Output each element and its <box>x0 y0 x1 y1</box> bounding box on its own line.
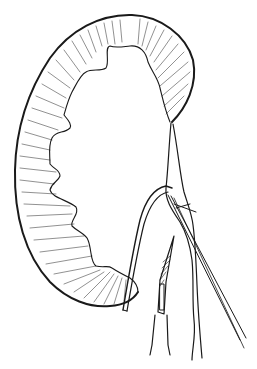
scalpel-handle <box>150 315 170 355</box>
needle-shaft-2 <box>171 196 246 338</box>
suture-needle <box>168 195 246 348</box>
scalpel <box>150 236 174 355</box>
retractor-tip <box>123 310 127 311</box>
retractor <box>123 186 172 311</box>
ureter-left-line <box>166 123 195 360</box>
kidney-hatching <box>20 19 190 304</box>
kidney-inner-outline <box>50 46 171 292</box>
needle-shaft-3 <box>174 198 244 348</box>
scalpel-slot <box>160 284 164 310</box>
needle-cross-stitch <box>174 204 196 212</box>
ureter <box>166 123 202 360</box>
illustration <box>0 0 257 369</box>
needle-shaft-1 <box>168 195 240 340</box>
